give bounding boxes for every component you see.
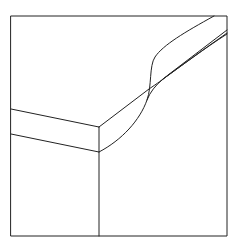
fault-line-a [149, 30, 227, 89]
upper-layer-line-left [11, 109, 99, 127]
lower-layer-line-left [11, 134, 99, 152]
block-diagram [0, 0, 238, 247]
upper-layer-line-right [99, 89, 149, 127]
frame-border [11, 16, 227, 236]
fault-line-b [147, 33, 227, 100]
